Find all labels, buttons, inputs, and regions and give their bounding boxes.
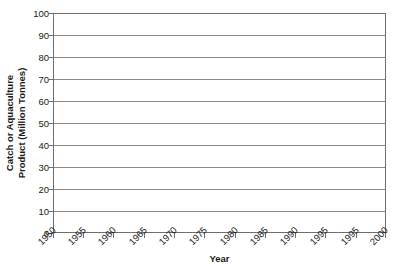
y-tick-label: 70	[27, 75, 49, 85]
y-tick-label: 90	[27, 31, 49, 41]
y-tick-label: 10	[27, 207, 49, 217]
y-tick-label: 40	[27, 141, 49, 151]
gridline	[54, 123, 385, 124]
gridline	[54, 167, 385, 168]
gridline	[54, 79, 385, 80]
gridline	[54, 189, 385, 190]
y-axis-title-line-2: Product (Million Tonnes)	[15, 68, 27, 179]
gridline	[54, 211, 385, 212]
y-tick-label: 20	[27, 185, 49, 195]
gridline	[54, 145, 385, 146]
y-axis-title-text: Catch or Aquaculture Product (Million To…	[4, 68, 27, 179]
y-tick-label: 50	[27, 119, 49, 129]
plot-area	[53, 13, 386, 233]
y-tick-label: 30	[27, 163, 49, 173]
chart-container: Catch or Aquaculture Product (Million To…	[0, 0, 397, 269]
y-axis-title-line-1: Catch or Aquaculture	[4, 68, 16, 179]
y-tick-label: 60	[27, 97, 49, 107]
gridline	[54, 101, 385, 102]
x-axis-title: Year	[53, 253, 386, 264]
y-tick-label: 80	[27, 53, 49, 63]
gridline	[54, 57, 385, 58]
gridline	[54, 35, 385, 36]
y-tick-label: 100	[27, 9, 49, 19]
